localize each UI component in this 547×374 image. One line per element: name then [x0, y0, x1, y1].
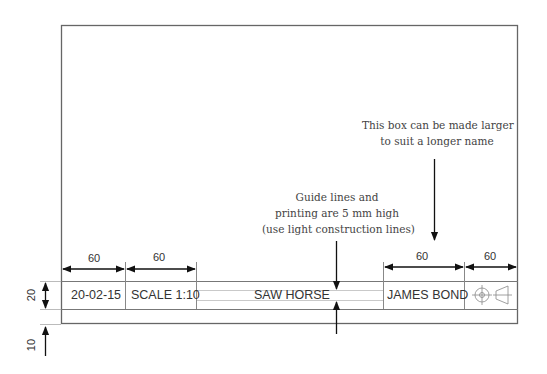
dim-label-margin: 10	[25, 339, 37, 351]
dim-label-date: 60	[88, 252, 100, 264]
guide-note-line1: Guide lines and	[262, 189, 412, 205]
dim-label-symbol: 60	[484, 250, 496, 262]
drafter-name-cell: JAMES BOND	[387, 288, 468, 302]
drawing-lines	[0, 0, 547, 374]
guide-lines-note: Guide lines and printing are 5 mm high (…	[262, 189, 412, 237]
date-cell: 20-02-15	[71, 288, 121, 302]
drawing-title-cell: SAW HORSE	[254, 288, 330, 302]
name-box-note-line2: to suit a longer name	[362, 133, 512, 149]
name-box-note-line1: This box can be made larger	[362, 117, 512, 133]
dim-label-name: 60	[416, 250, 428, 262]
third-angle-projection-icon	[472, 285, 512, 305]
dim-label-height: 20	[25, 289, 37, 301]
name-box-note: This box can be made larger to suit a lo…	[362, 117, 512, 149]
title-block-diagram: 60 60 60 60 20 10 20-02-15 SCALE 1:10 SA…	[0, 0, 547, 374]
border-frame	[62, 26, 518, 324]
scale-cell: SCALE 1:10	[131, 288, 200, 302]
guide-note-line2: printing are 5 mm high	[262, 205, 412, 221]
dim-label-scale: 60	[153, 251, 165, 263]
guide-note-line3: (use light construction lines)	[262, 221, 412, 237]
